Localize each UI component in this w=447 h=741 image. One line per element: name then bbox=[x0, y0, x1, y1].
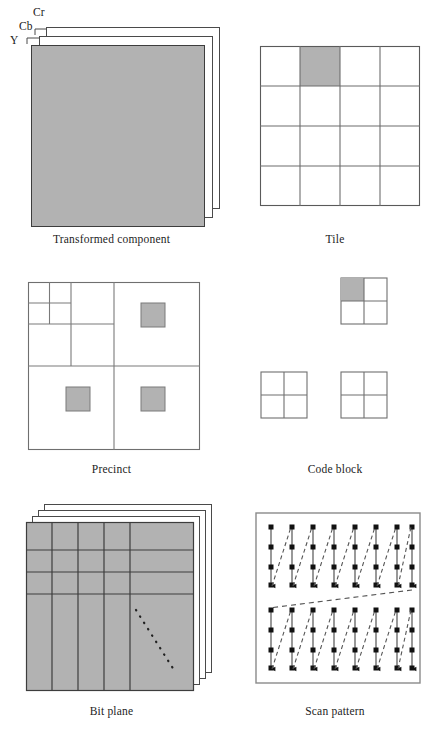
code-block-group bbox=[243, 276, 433, 451]
code-block-2 bbox=[261, 372, 307, 418]
panel-tile: Tile bbox=[223, 0, 447, 258]
caption-precinct: Precinct bbox=[0, 463, 223, 475]
precinct-decomposition bbox=[28, 282, 200, 450]
bit-plane-stack bbox=[14, 502, 214, 692]
panel-transformed-component: Cr Cb Y Transformed component bbox=[0, 0, 223, 258]
panel-code-block: Code block bbox=[223, 258, 447, 490]
scan-pattern-diagram bbox=[255, 512, 421, 684]
code-block-3 bbox=[341, 372, 387, 418]
panel-bit-plane: Bit plane bbox=[0, 490, 223, 741]
caption-code-block: Code block bbox=[223, 463, 447, 475]
tile-grid bbox=[260, 46, 420, 206]
caption-tile: Tile bbox=[223, 233, 447, 245]
panel-precinct: Precinct bbox=[0, 258, 223, 490]
code-block-1 bbox=[341, 278, 387, 324]
tile-highlight-cell bbox=[300, 46, 340, 86]
caption-bit-plane: Bit plane bbox=[0, 705, 223, 717]
panel-scan-pattern: Scan pattern bbox=[223, 490, 447, 741]
caption-transformed-component: Transformed component bbox=[0, 233, 223, 245]
caption-scan-pattern: Scan pattern bbox=[223, 705, 447, 717]
component-leader-lines bbox=[0, 0, 223, 258]
